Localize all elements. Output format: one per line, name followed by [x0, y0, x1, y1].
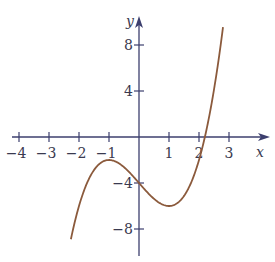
x-tick-label: −2	[66, 145, 87, 161]
x-tick-label: −1	[96, 145, 117, 161]
y-axis-label: y	[125, 13, 135, 29]
x-tick-label: 3	[225, 145, 234, 161]
x-axis-label: x	[256, 144, 264, 160]
y-tick-label: −4	[112, 175, 133, 191]
x-tick-label: −4	[6, 145, 27, 161]
cubic-function-graph: −4−3−2−112384−4−8 x y	[0, 0, 275, 262]
y-tick-label: 8	[124, 37, 133, 53]
x-tick-label: 1	[165, 145, 174, 161]
y-tick-label: −8	[112, 221, 133, 237]
y-tick-label: 4	[124, 83, 133, 99]
axes	[12, 16, 270, 256]
function-curve	[71, 27, 223, 239]
x-tick-label: −3	[36, 145, 57, 161]
